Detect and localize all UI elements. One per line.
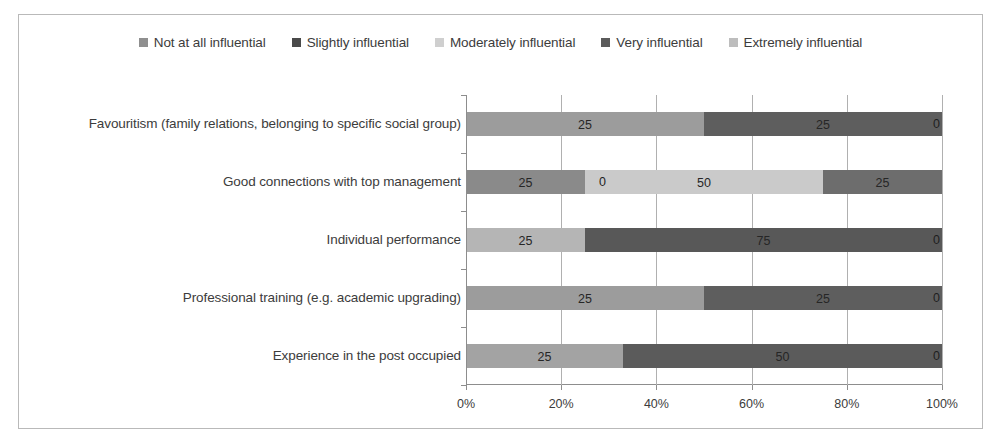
legend-item: Moderately influential (435, 35, 575, 50)
category-label: Favouritism (family relations, belonging… (59, 115, 461, 133)
bar-segment-value-label: 50 (697, 176, 711, 190)
bar-segment[interactable]: 25 (466, 228, 585, 252)
legend-item: Extremely influential (729, 35, 863, 50)
x-axis-tick-label: 60% (739, 397, 764, 411)
x-axis-tick-label: 100% (926, 397, 958, 411)
bar-row[interactable]: 25750 (466, 228, 942, 252)
bar-segment-value-label: 50 (776, 350, 790, 364)
bar-end-value-label: 0 (933, 112, 940, 136)
x-axis-tick (656, 385, 657, 390)
bar-row[interactable]: 25500 (466, 344, 942, 368)
legend-item: Very influential (601, 35, 702, 50)
legend-label: Slightly influential (307, 35, 409, 50)
bar-segment[interactable]: 25 (466, 344, 623, 368)
legend-swatch-icon (729, 38, 738, 47)
legend-swatch-icon (139, 38, 148, 47)
legend-label: Extremely influential (744, 35, 863, 50)
bar-segment[interactable]: 25 (466, 286, 704, 310)
chart-legend: Not at all influentialSlightly influenti… (19, 35, 982, 50)
legend-label: Not at all influential (154, 35, 266, 50)
plot-area: 0%20%40%60%80%100%2525025502502575025250… (466, 95, 942, 385)
legend-label: Moderately influential (450, 35, 575, 50)
bar-segment-value-label: 25 (816, 118, 830, 132)
category-label: Professional training (e.g. academic upg… (59, 289, 461, 307)
bar-row[interactable]: 25250 (466, 112, 942, 136)
legend-swatch-icon (435, 38, 444, 47)
bar-segment-value-label: 25 (519, 234, 533, 248)
category-label: Experience in the post occupied (59, 347, 461, 365)
bar-segment-value-label: 25 (538, 350, 552, 364)
bar-segment[interactable]: 25 (704, 112, 942, 136)
x-axis-tick-label: 80% (834, 397, 859, 411)
bar-segment-value-label: 25 (519, 176, 533, 190)
bar-segment-value-label: 25 (816, 292, 830, 306)
category-label: Good connections with top management (59, 173, 461, 191)
bar-segment-value-label: 25 (578, 292, 592, 306)
x-axis-line (466, 384, 942, 385)
bar-segment[interactable]: 75 (585, 228, 942, 252)
bar-segment[interactable]: 50 (585, 170, 823, 194)
x-axis-tick (942, 385, 943, 390)
bar-segment[interactable]: 25 (704, 286, 942, 310)
x-axis-tick (466, 385, 467, 390)
y-axis-line (466, 95, 467, 385)
y-axis-tick (461, 385, 466, 386)
bar-segment-value-label: 75 (757, 234, 771, 248)
bar-segment[interactable]: 25 (466, 170, 585, 194)
legend-swatch-icon (292, 38, 301, 47)
x-axis-tick (847, 385, 848, 390)
x-gridline (942, 95, 943, 385)
bar-segment[interactable]: 25 (823, 170, 942, 194)
x-axis-tick (752, 385, 753, 390)
bar-end-value-label: 0 (933, 228, 940, 252)
chart-figure: Not at all influentialSlightly influenti… (18, 14, 983, 429)
x-axis-tick (561, 385, 562, 390)
legend-item: Not at all influential (139, 35, 266, 50)
category-axis-labels: Favouritism (family relations, belonging… (59, 95, 461, 385)
bar-end-value-label: 0 (933, 344, 940, 368)
legend-item: Slightly influential (292, 35, 409, 50)
bar-zero-value-label: 0 (599, 170, 606, 194)
bar-row[interactable]: 2550250 (466, 170, 942, 194)
category-label: Individual performance (59, 231, 461, 249)
bar-segment[interactable]: 25 (466, 112, 704, 136)
legend-swatch-icon (601, 38, 610, 47)
bar-segment[interactable]: 50 (623, 344, 942, 368)
legend-label: Very influential (616, 35, 702, 50)
bar-row[interactable]: 25250 (466, 286, 942, 310)
x-axis-tick-label: 20% (549, 397, 574, 411)
x-axis-tick-label: 40% (644, 397, 669, 411)
bar-end-value-label: 0 (933, 286, 940, 310)
bar-segment-value-label: 25 (578, 118, 592, 132)
bar-segment-value-label: 25 (876, 176, 890, 190)
x-axis-tick-label: 0% (457, 397, 475, 411)
